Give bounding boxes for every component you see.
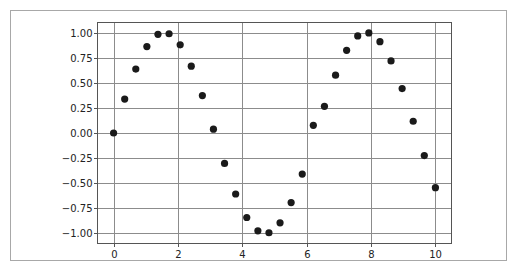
y-tick-label: −0.75 <box>62 203 93 214</box>
data-point <box>421 152 428 159</box>
data-point <box>343 47 350 54</box>
x-tick-label: 8 <box>368 249 374 260</box>
grid-layer <box>98 23 452 244</box>
data-point <box>376 38 383 45</box>
data-point <box>354 32 361 39</box>
data-point <box>254 227 261 234</box>
data-point <box>165 30 172 37</box>
data-point <box>188 63 195 70</box>
data-point <box>221 160 228 167</box>
data-point <box>210 126 217 133</box>
data-point <box>310 122 317 129</box>
data-point <box>177 41 184 48</box>
y-tick-label: 0.25 <box>70 103 92 114</box>
data-point <box>321 103 328 110</box>
y-tick-label: −0.50 <box>62 178 93 189</box>
data-point <box>399 85 406 92</box>
y-tick-label: 1.00 <box>70 28 92 39</box>
data-point <box>232 190 239 197</box>
data-point <box>288 199 295 206</box>
x-tick-label: 10 <box>429 249 442 260</box>
data-point <box>199 92 206 99</box>
x-tick-label: 4 <box>239 249 245 260</box>
data-point <box>265 229 272 236</box>
ticks-layer: 02468101.000.750.500.250.00−0.25−0.50−0.… <box>62 28 442 260</box>
scatter-chart: 02468101.000.750.500.250.00−0.25−0.50−0.… <box>0 0 519 275</box>
data-point <box>132 66 139 73</box>
data-point <box>410 118 417 125</box>
y-tick-label: −0.25 <box>62 153 93 164</box>
data-point <box>110 129 117 136</box>
data-point <box>243 214 250 221</box>
y-tick-label: 0.75 <box>70 53 92 64</box>
data-point <box>154 31 161 38</box>
data-point <box>365 29 372 36</box>
data-point <box>299 170 306 177</box>
data-point <box>276 219 283 226</box>
x-tick-label: 2 <box>175 249 181 260</box>
data-point <box>332 72 339 79</box>
data-point <box>432 184 439 191</box>
data-point <box>121 95 128 102</box>
data-point <box>143 43 150 50</box>
x-tick-label: 6 <box>304 249 310 260</box>
data-point <box>387 57 394 64</box>
points-layer <box>110 29 439 236</box>
x-tick-label: 0 <box>111 249 117 260</box>
y-tick-label: 0.00 <box>70 128 92 139</box>
y-tick-label: 0.50 <box>70 78 92 89</box>
y-tick-label: −1.00 <box>62 228 93 239</box>
